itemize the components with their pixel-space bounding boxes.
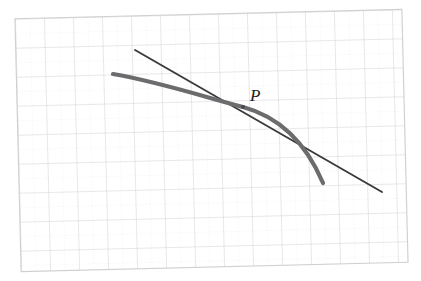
grid-group	[15, 9, 408, 271]
tangent-diagram: P	[0, 0, 421, 281]
point-label-p: P	[249, 86, 260, 105]
grid-major-lines	[15, 9, 408, 271]
figure-container: P	[0, 0, 421, 281]
tangency-point-marker	[241, 105, 245, 109]
